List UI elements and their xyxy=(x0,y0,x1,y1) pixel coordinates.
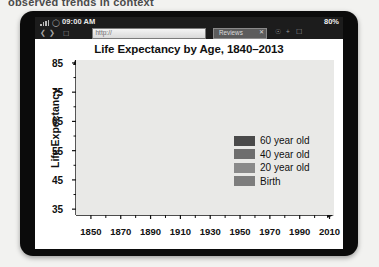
legend-swatch xyxy=(234,163,255,173)
browser-chrome: ◯ 09:00 AM 80% ❮ ❯ ☐ http:// Reviews ✕ xyxy=(35,17,343,39)
battery-percentage: 80% xyxy=(324,18,339,26)
legend-label: 60 year old xyxy=(260,135,309,146)
y-tick-label: 85 xyxy=(52,57,63,68)
browser-toolbar: ❮ ❯ ☐ http:// Reviews ✕ ☉ + ☐ xyxy=(35,26,343,39)
x-tick-label: 1990 xyxy=(289,226,310,237)
x-tick-label: 1870 xyxy=(110,226,131,237)
wifi-icon: ◯ xyxy=(52,19,60,26)
legend-item: 20 year old xyxy=(234,161,309,175)
add-icon[interactable]: + xyxy=(286,28,290,36)
url-input[interactable]: http:// xyxy=(96,29,112,37)
chart-title: Life Expectancy by Age, 1840–2013 xyxy=(35,43,343,55)
legend-label: 20 year old xyxy=(260,162,309,173)
back-arrow-icon[interactable]: ❮ xyxy=(40,28,46,37)
y-tick-label: 45 xyxy=(52,174,63,185)
x-tick-label: 1910 xyxy=(170,226,191,237)
chart-legend: 60 year old40 year old20 year oldBirth xyxy=(234,134,309,188)
tablet-device-frame: ◯ 09:00 AM 80% ❮ ❯ ☐ http:// Reviews ✕ xyxy=(20,11,358,256)
browser-tab-reviews[interactable]: Reviews ✕ xyxy=(213,28,267,39)
close-icon[interactable]: ✕ xyxy=(259,29,264,36)
y-tick-label: 75 xyxy=(52,87,63,98)
x-tick-label: 1930 xyxy=(200,226,221,237)
legend-label: Birth xyxy=(260,176,281,187)
y-tick-label: 55 xyxy=(52,145,63,156)
x-tick-label: 2010 xyxy=(319,226,340,237)
tabs-icon[interactable]: ☐ xyxy=(296,28,302,36)
url-bar[interactable]: http:// xyxy=(92,28,206,39)
legend-item: 60 year old xyxy=(234,134,309,148)
legend-item: 40 year old xyxy=(234,148,309,162)
y-tick-label: 35 xyxy=(52,204,63,215)
forward-arrow-icon[interactable]: ❯ xyxy=(49,28,55,37)
legend-swatch xyxy=(234,136,255,146)
status-time: 09:00 AM xyxy=(62,18,95,26)
signal-bars-icon xyxy=(40,20,49,26)
x-tick-label: 1970 xyxy=(259,226,280,237)
page-caption: observed trends in context xyxy=(8,0,368,6)
legend-swatch xyxy=(234,149,255,159)
legend-item: Birth xyxy=(234,175,309,189)
web-page-content: Life Expectancy by Age, 1840–2013 Life E… xyxy=(35,39,343,249)
bookmark-icon[interactable]: ☐ xyxy=(63,29,69,38)
x-tick-label: 1850 xyxy=(80,226,101,237)
x-tick-label: 1890 xyxy=(140,226,161,237)
y-tick-label: 65 xyxy=(52,116,63,127)
legend-label: 40 year old xyxy=(260,149,309,160)
legend-swatch xyxy=(234,176,255,186)
device-screen: ◯ 09:00 AM 80% ❮ ❯ ☐ http:// Reviews ✕ xyxy=(35,17,343,249)
lock-icon[interactable]: ☉ xyxy=(275,28,281,36)
x-tick-label: 1950 xyxy=(229,226,250,237)
screenshot-root: observed trends in context ◯ 09:00 AM 80… xyxy=(0,0,379,267)
browser-tab-label: Reviews xyxy=(219,29,243,37)
